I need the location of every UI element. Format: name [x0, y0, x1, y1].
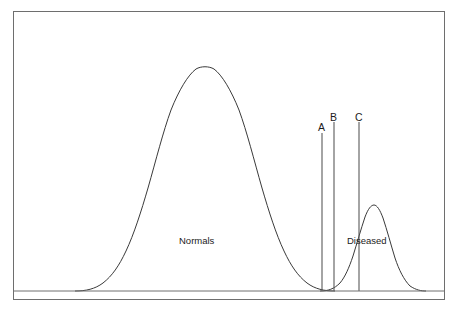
- figure-root: Normals Diseased A B C: [0, 0, 459, 313]
- threshold-label-c: C: [355, 112, 363, 123]
- normals-curve-label: Normals: [179, 236, 214, 246]
- threshold-label-a: A: [318, 122, 325, 133]
- diseased-curve-label: Diseased: [347, 236, 387, 246]
- plot-frame-border: [13, 11, 445, 300]
- threshold-label-b: B: [330, 112, 337, 123]
